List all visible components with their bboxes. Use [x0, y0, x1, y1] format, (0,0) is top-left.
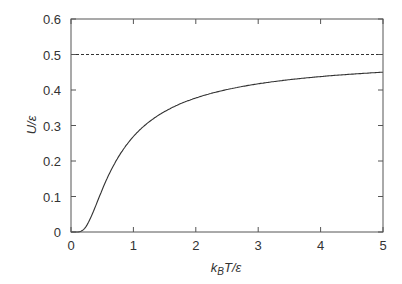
y-tick-label: 0.3	[43, 119, 61, 134]
plot-area	[71, 55, 383, 233]
x-tick-label: 3	[255, 238, 262, 253]
y-tick-label: 0.2	[43, 154, 61, 169]
x-tick-label: 5	[379, 238, 386, 253]
x-tick-label: 2	[192, 238, 199, 253]
y-tick-label: 0.5	[43, 48, 61, 63]
plot-frame	[71, 19, 383, 232]
energy-curve	[71, 72, 383, 232]
y-tick-label: 0.4	[43, 83, 61, 98]
y-tick-label: 0.6	[43, 12, 61, 27]
x-tick-label: 4	[317, 238, 324, 253]
chart: 01234500.10.20.30.40.50.6 U/ε kBT/ε	[0, 0, 402, 284]
x-tick-label: 1	[130, 238, 137, 253]
y-tick-label: 0.1	[43, 190, 61, 205]
x-tick-label: 0	[67, 238, 74, 253]
y-axis-title: U/ε	[24, 115, 39, 134]
x-axis-title: kBT/ε	[211, 260, 242, 277]
y-tick-label: 0	[54, 225, 61, 240]
axes: 01234500.10.20.30.40.50.6	[43, 12, 387, 253]
